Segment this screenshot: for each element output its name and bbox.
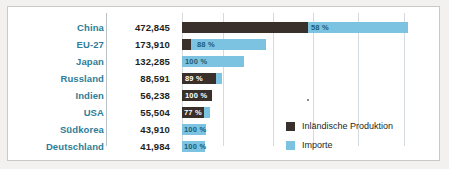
bar-row-china: 58 % (176, 22, 408, 33)
country-value-indien: 56,238 (108, 88, 170, 103)
bar-row-deutschland: 100 % (176, 141, 205, 152)
bar-label-china: 58 % (311, 22, 329, 33)
country-label-russland: Russland (8, 71, 104, 86)
bar-row-eu27: 88 % (176, 39, 266, 50)
country-label-suedkorea: Südkorea (8, 122, 104, 137)
country-value-china: 472,845 (108, 20, 170, 35)
bar-row-russland: 89 % (176, 73, 222, 84)
table-divider (106, 13, 107, 146)
country-value-deutschland: 41,984 (108, 139, 170, 154)
chart-frame: China 472,845 EU-27 173,910 Japan 132,28… (7, 6, 440, 161)
legend-label-domestic: Inländische Produktion (302, 119, 393, 134)
bar-label-suedkorea: 100 % (184, 124, 206, 135)
chart-screenshot: China 472,845 EU-27 173,910 Japan 132,28… (0, 0, 449, 169)
legend-label-imports: Importe (302, 138, 333, 153)
country-label-usa: USA (8, 105, 104, 120)
bar-row-usa: 77 % (176, 107, 210, 118)
bar-segment-domestic-china (182, 22, 308, 33)
stray-speck (307, 99, 309, 101)
country-label-china: China (8, 20, 104, 35)
country-value-russland: 88,591 (108, 71, 170, 86)
country-label-japan: Japan (8, 54, 104, 69)
bar-label-eu27: 88 % (197, 39, 215, 50)
bar-label-indien: 100 % (185, 90, 207, 101)
bar-segment-domestic-eu27 (182, 39, 191, 50)
country-label-indien: Indien (8, 88, 104, 103)
bar-label-deutschland: 100 % (184, 141, 206, 152)
bar-segment-imports-russland (216, 73, 222, 84)
country-value-eu27: 173,910 (108, 37, 170, 52)
country-value-suedkorea: 43,910 (108, 122, 170, 137)
bar-row-japan: 100 % (176, 56, 244, 67)
bar-row-suedkorea: 100 % (176, 124, 206, 135)
bar-segment-imports-usa (204, 107, 210, 118)
bar-label-russland: 89 % (185, 73, 203, 84)
bar-row-indien: 100 % (176, 90, 212, 101)
country-value-usa: 55,504 (108, 105, 170, 120)
bar-label-usa: 77 % (184, 107, 202, 118)
plot-area: 58 % 88 % 100 % 89 % 100 % (176, 7, 440, 160)
bar-label-japan: 100 % (185, 56, 207, 67)
country-value-table: China 472,845 EU-27 173,910 Japan 132,28… (8, 7, 176, 160)
legend-swatch-domestic-icon (286, 122, 295, 131)
country-label-deutschland: Deutschland (8, 139, 104, 154)
country-value-japan: 132,285 (108, 54, 170, 69)
legend-swatch-imports-icon (286, 141, 295, 150)
country-label-eu27: EU-27 (8, 37, 104, 52)
